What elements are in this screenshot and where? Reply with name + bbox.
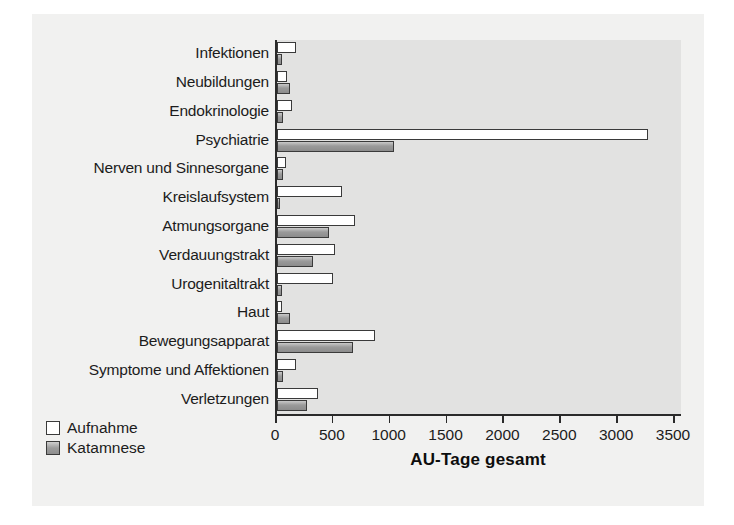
bar-aufnahme — [277, 330, 375, 341]
bar-row: Infektionen — [275, 40, 681, 69]
bar-row: Endokrinologie — [275, 98, 681, 127]
x-tick-label: 500 — [319, 426, 345, 444]
legend-swatch-aufnahme — [46, 421, 60, 435]
bar-row: Nerven und Sinnesorgane — [275, 155, 681, 184]
category-label: Endokrinologie — [169, 102, 269, 120]
bar-row: Haut — [275, 299, 681, 328]
x-tick — [502, 414, 504, 423]
bar-row: Atmungsorgane — [275, 213, 681, 242]
bar-aufnahme — [277, 301, 282, 312]
legend-item-katamnese: Katamnese — [46, 438, 236, 458]
bar-aufnahme — [277, 186, 342, 197]
category-label: Infektionen — [195, 44, 269, 62]
category-label: Psychiatrie — [195, 131, 269, 149]
category-label: Atmungsorgane — [162, 217, 269, 235]
x-tick — [616, 414, 618, 423]
bar-katamnese — [277, 169, 283, 180]
x-tick — [332, 414, 334, 423]
bar-katamnese — [277, 112, 283, 123]
bar-row: Verdauungstrakt — [275, 241, 681, 270]
category-label: Kreislaufsystem — [163, 188, 269, 206]
bar-katamnese — [277, 342, 353, 353]
x-tick-label: 2000 — [485, 426, 519, 444]
bar-katamnese — [277, 141, 394, 152]
bar-aufnahme — [277, 100, 292, 111]
x-tick-label: 1000 — [371, 426, 405, 444]
bar-katamnese — [277, 313, 290, 324]
category-label: Neubildungen — [176, 73, 269, 91]
category-label: Urogenitaltrakt — [171, 275, 269, 293]
figure-panel: InfektionenNeubildungenEndokrinologiePsy… — [32, 14, 704, 506]
x-tick-label: 3000 — [599, 426, 633, 444]
bar-aufnahme — [277, 157, 286, 168]
category-label: Verdauungstrakt — [159, 246, 269, 264]
bar-katamnese — [277, 371, 283, 382]
bar-row: Kreislaufsystem — [275, 184, 681, 213]
chart-legend: Aufnahme Katamnese — [46, 418, 236, 458]
legend-item-aufnahme: Aufnahme — [46, 418, 236, 438]
x-axis-line — [275, 414, 681, 416]
category-label: Haut — [237, 303, 269, 321]
bar-katamnese — [277, 54, 282, 65]
bar-row: Neubildungen — [275, 69, 681, 98]
bar-row: Symptome und Affektionen — [275, 356, 681, 385]
bar-aufnahme — [277, 215, 355, 226]
bar-katamnese — [277, 83, 290, 94]
bar-aufnahme — [277, 273, 333, 284]
bar-aufnahme — [277, 359, 296, 370]
chart-screenshot: InfektionenNeubildungenEndokrinologiePsy… — [0, 0, 734, 525]
x-tick — [389, 414, 391, 423]
bar-katamnese — [277, 285, 282, 296]
bar-aufnahme — [277, 244, 335, 255]
category-label: Bewegungsapparat — [139, 332, 269, 350]
x-tick-label: 0 — [271, 426, 280, 444]
x-tick — [446, 414, 448, 423]
bar-row: Bewegungsapparat — [275, 328, 681, 357]
x-tick-label: 2500 — [542, 426, 576, 444]
x-tick — [559, 414, 561, 423]
plot-wrapper: InfektionenNeubildungenEndokrinologiePsy… — [275, 40, 681, 440]
x-tick — [275, 414, 277, 423]
bar-row: Urogenitaltrakt — [275, 270, 681, 299]
x-tick-label: 3500 — [656, 426, 690, 444]
bar-aufnahme — [277, 129, 648, 140]
x-tick — [673, 414, 675, 423]
bar-aufnahme — [277, 71, 287, 82]
bar-katamnese — [277, 256, 313, 267]
x-axis-title: AU-Tage gesamt — [275, 450, 681, 470]
bar-aufnahme — [277, 388, 318, 399]
bar-row: Psychiatrie — [275, 126, 681, 155]
legend-swatch-katamnese — [46, 441, 60, 455]
bar-katamnese — [277, 227, 329, 238]
category-label: Nerven und Sinnesorgane — [94, 159, 270, 177]
legend-label-katamnese: Katamnese — [67, 439, 145, 457]
bar-aufnahme — [277, 42, 296, 53]
x-tick-label: 1500 — [428, 426, 462, 444]
bar-katamnese — [277, 400, 307, 411]
legend-label-aufnahme: Aufnahme — [67, 419, 138, 437]
bar-katamnese — [277, 198, 280, 209]
bar-row: Verletzungen — [275, 385, 681, 414]
category-label: Verletzungen — [181, 390, 269, 408]
category-label: Symptome und Affektionen — [89, 361, 269, 379]
